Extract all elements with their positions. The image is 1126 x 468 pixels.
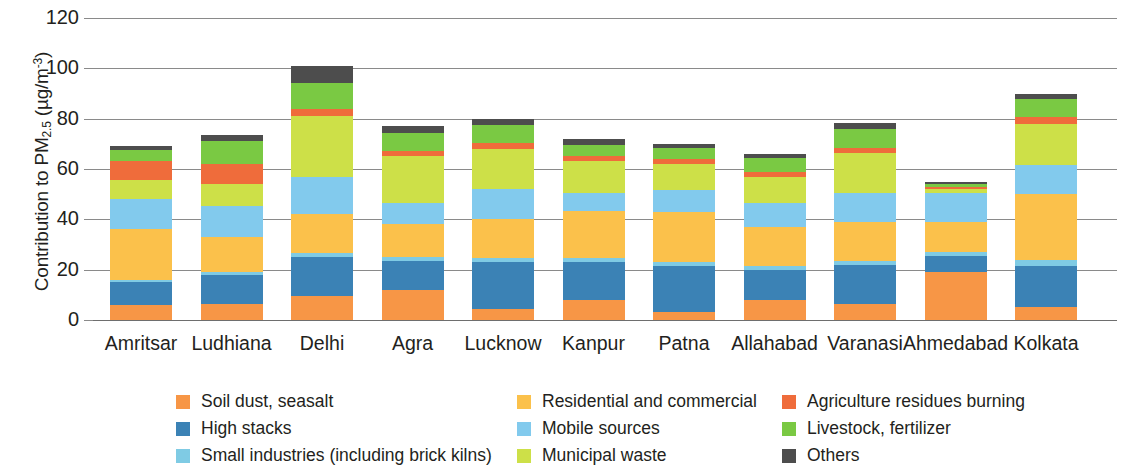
bar-segment — [110, 305, 172, 320]
bar-segment — [201, 141, 263, 164]
bar-segment — [653, 190, 715, 211]
bar-segment — [1015, 266, 1077, 308]
bar-segment — [834, 265, 896, 304]
legend-item[interactable]: Soil dust, seasalt — [176, 392, 333, 411]
bar-segment — [291, 214, 353, 253]
chart-figure: Contribution to PM2.5 (µg/m-3) 020406080… — [0, 0, 1126, 468]
bar-segment — [382, 261, 444, 290]
bar-segment — [653, 312, 715, 320]
bar-lucknow — [472, 119, 534, 320]
bar-segment — [653, 148, 715, 159]
plot-area: 020406080100120 AmritsarLudhianaDelhiAgr… — [93, 18, 1117, 320]
bar-segment — [201, 184, 263, 205]
bar-segment — [834, 222, 896, 261]
bar-segment — [291, 66, 353, 84]
bar-segment — [834, 193, 896, 222]
y-tick-mark-80 — [84, 119, 93, 120]
bar-segment — [472, 149, 534, 189]
bar-segment — [472, 125, 534, 143]
legend-label: High stacks — [201, 419, 291, 438]
legend-swatch-icon — [782, 449, 796, 463]
bar-ludhiana — [201, 135, 263, 320]
legend-swatch-icon — [176, 395, 190, 409]
bar-segment — [472, 262, 534, 309]
y-tick-mark-20 — [84, 270, 93, 271]
bar-segment — [472, 189, 534, 219]
bar-ahmedabad — [925, 182, 987, 320]
bar-segment — [201, 237, 263, 272]
legend-item[interactable]: Agriculture residues burning — [782, 392, 1025, 411]
legend-swatch-icon — [176, 422, 190, 436]
bar-allahabad — [744, 154, 806, 320]
gridline-100 — [93, 68, 1117, 69]
legend-label: Agriculture residues burning — [807, 392, 1025, 411]
bar-delhi — [291, 66, 353, 320]
bar-segment — [563, 193, 625, 211]
bar-segment — [653, 266, 715, 313]
legend-item[interactable]: Mobile sources — [517, 419, 660, 438]
bar-segment — [1015, 307, 1077, 320]
legend-swatch-icon — [176, 449, 190, 463]
bar-segment — [925, 193, 987, 222]
bar-segment — [201, 164, 263, 184]
legend-item[interactable]: High stacks — [176, 419, 291, 438]
bar-segment — [472, 219, 534, 258]
y-tick-label-120: 120 — [9, 7, 79, 27]
bar-segment — [382, 133, 444, 152]
gridline-120 — [93, 18, 1117, 19]
chart-legend: Soil dust, seasaltHigh stacksSmall indus… — [0, 388, 1126, 468]
x-tick-label-kolkata: Kolkata — [981, 332, 1111, 354]
legend-swatch-icon — [517, 395, 531, 409]
bar-segment — [1015, 99, 1077, 118]
bar-amritsar — [110, 146, 172, 320]
legend-label: Municipal waste — [542, 446, 667, 465]
bar-segment — [291, 83, 353, 108]
bar-patna — [653, 144, 715, 320]
bar-segment — [653, 212, 715, 262]
bar-segment — [744, 270, 806, 300]
bar-segment — [291, 296, 353, 320]
bar-segment — [744, 203, 806, 227]
bar-segment — [1015, 124, 1077, 166]
bar-segment — [291, 177, 353, 215]
bar-varanasi — [834, 123, 896, 321]
bar-segment — [744, 158, 806, 172]
bar-segment — [925, 222, 987, 252]
y-tick-mark-60 — [84, 169, 93, 170]
y-tick-label-0: 0 — [9, 309, 79, 329]
bar-kolkata — [1015, 94, 1077, 320]
legend-label: Small industries (including brick kilns) — [201, 446, 492, 465]
y-tick-label-40: 40 — [9, 208, 79, 228]
legend-label: Livestock, fertilizer — [807, 419, 951, 438]
bar-segment — [110, 150, 172, 161]
bar-segment — [925, 272, 987, 320]
legend-swatch-icon — [782, 422, 796, 436]
legend-item[interactable]: Municipal waste — [517, 446, 667, 465]
legend-label: Mobile sources — [542, 419, 660, 438]
bar-segment — [382, 224, 444, 257]
legend-item[interactable]: Livestock, fertilizer — [782, 419, 951, 438]
bar-segment — [563, 300, 625, 320]
bar-segment — [110, 282, 172, 305]
bar-kanpur — [563, 139, 625, 320]
y-tick-label-100: 100 — [9, 57, 79, 77]
bar-segment — [382, 203, 444, 224]
legend-item[interactable]: Others — [782, 446, 860, 465]
bar-segment — [110, 229, 172, 279]
y-tick-mark-0 — [84, 320, 93, 321]
bar-segment — [744, 177, 806, 203]
y-tick-mark-120 — [84, 18, 93, 19]
legend-item[interactable]: Residential and commercial — [517, 392, 757, 411]
legend-swatch-icon — [517, 422, 531, 436]
y-tick-label-20: 20 — [9, 259, 79, 279]
bar-segment — [382, 156, 444, 203]
bar-segment — [563, 145, 625, 156]
legend-item[interactable]: Small industries (including brick kilns) — [176, 446, 492, 465]
bar-segment — [834, 153, 896, 193]
bar-segment — [110, 180, 172, 199]
bar-segment — [291, 109, 353, 117]
bar-segment — [563, 161, 625, 192]
bar-segment — [291, 116, 353, 176]
bar-segment — [1015, 194, 1077, 259]
bar-segment — [563, 211, 625, 259]
